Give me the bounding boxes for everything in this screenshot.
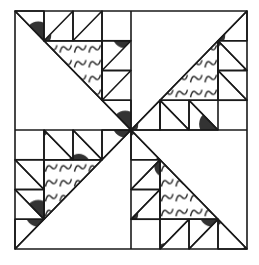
quadrant-top-right [131,11,247,130]
quadrant-bottom-right [131,130,247,249]
quilt-block-diagram [0,0,259,265]
quadrant-bottom-left [15,130,131,249]
quadrant-top-left [15,11,131,130]
